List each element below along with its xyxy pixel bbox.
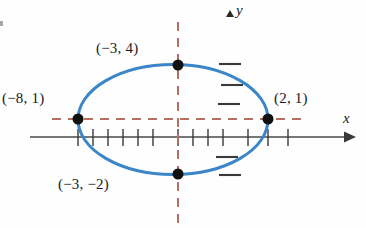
point-co-vertex-top (173, 60, 184, 71)
point-vertex-right (263, 114, 274, 125)
label-co-vertex-top: (−3, 4) (96, 40, 138, 57)
point-co-vertex-bottom (173, 169, 184, 180)
label-vertex-left: (−8, 1) (2, 90, 44, 107)
y-axis-arrow (226, 10, 234, 17)
x-axis-label: x (343, 110, 350, 127)
graph-canvas (0, 0, 366, 228)
y-axis-label: y (236, 2, 243, 19)
label-vertex-right: (2, 1) (274, 90, 308, 107)
point-vertex-left (73, 114, 84, 125)
edge-speck (0, 21, 3, 26)
label-co-vertex-bottom: (−3, −2) (58, 176, 109, 193)
ellipse-figure: (−3, 4) (−8, 1) (2, 1) (−3, −2) x y (0, 0, 366, 228)
